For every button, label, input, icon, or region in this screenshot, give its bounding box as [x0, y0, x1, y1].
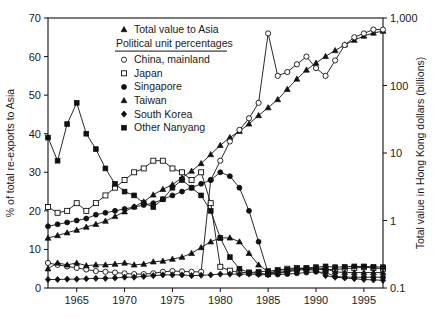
series-marker-4 [189, 250, 195, 255]
legend-subheader-political-unit: Political unit percentages [116, 37, 233, 49]
legend-marker-other-nanyang [122, 125, 127, 130]
series-marker-6 [314, 265, 319, 270]
series-marker-1 [266, 31, 271, 36]
series-line-6 [48, 103, 383, 273]
series-marker-3 [256, 239, 261, 244]
series-marker-6 [304, 266, 309, 271]
y2-axis-tick-label: 1 [390, 215, 396, 227]
series-marker-6 [103, 166, 108, 171]
series-marker-0 [332, 48, 338, 53]
series-line-2 [48, 161, 383, 274]
series-marker-2 [199, 170, 204, 175]
legend-label-south-korea: South Korea [134, 108, 193, 120]
y-axis-tick-label: 40 [29, 128, 41, 140]
series-marker-0 [103, 218, 109, 223]
x-axis-tick-label: 1980 [208, 294, 232, 306]
series-marker-1 [218, 158, 223, 163]
series-marker-4 [74, 260, 80, 265]
series-marker-2 [141, 166, 146, 171]
x-axis-tick-label: 1970 [112, 294, 136, 306]
legend-label-other-nanyang: Other Nanyang [134, 121, 205, 133]
legend-marker-south-korea [121, 111, 126, 117]
series-marker-2 [151, 158, 156, 163]
series-marker-5 [84, 276, 89, 282]
x-axis-tick-label: 1985 [256, 294, 280, 306]
series-marker-2 [160, 158, 165, 163]
series-marker-1 [352, 35, 357, 40]
series-marker-1 [371, 27, 376, 32]
series-marker-6 [371, 264, 376, 269]
chart-container: 0102030405060700.11101001,00019651970197… [0, 0, 434, 319]
series-marker-0 [313, 60, 319, 65]
x-axis-tick-label: 1975 [160, 294, 184, 306]
series-marker-4 [122, 260, 128, 265]
series-marker-6 [199, 193, 204, 198]
series-marker-2 [65, 208, 70, 213]
series-marker-6 [93, 147, 98, 152]
series-marker-5 [45, 276, 50, 282]
series-marker-6 [189, 185, 194, 190]
series-marker-1 [227, 139, 232, 144]
series-marker-6 [294, 266, 299, 271]
series-marker-2 [93, 201, 98, 206]
series-marker-6 [65, 122, 70, 127]
series-marker-1 [45, 260, 50, 265]
y2-axis-title: Total value in Hong Kong dollars (billio… [414, 57, 426, 250]
series-marker-1 [380, 27, 385, 32]
series-marker-3 [55, 222, 60, 227]
x-axis-tick-label: 1995 [352, 294, 376, 306]
series-marker-6 [151, 205, 156, 210]
series-marker-3 [113, 208, 118, 213]
series-marker-6 [237, 266, 242, 271]
series-marker-3 [46, 224, 51, 229]
y2-axis-tick-label: 1,000 [390, 12, 418, 24]
series-marker-3 [218, 170, 223, 175]
y2-axis-tick-label: 100 [390, 80, 408, 92]
series-marker-6 [361, 264, 366, 269]
series-marker-2 [55, 210, 60, 215]
series-marker-6 [141, 201, 146, 206]
series-marker-6 [333, 265, 338, 270]
series-marker-6 [381, 265, 386, 270]
y-axis-tick-label: 50 [29, 89, 41, 101]
series-marker-0 [304, 67, 310, 72]
series-marker-3 [84, 216, 89, 221]
series-marker-5 [218, 271, 223, 277]
legend-label-china-mainland: China, mainland [134, 53, 210, 65]
series-marker-0 [150, 192, 156, 197]
series-marker-5 [112, 275, 117, 281]
legend-label-japan: Japan [134, 67, 163, 79]
series-marker-1 [342, 42, 347, 47]
series-marker-0 [323, 53, 329, 58]
series-marker-2 [189, 178, 194, 183]
legend-marker-japan [122, 71, 127, 76]
series-marker-1 [103, 269, 108, 274]
series-marker-1 [323, 73, 328, 78]
series-marker-1 [246, 116, 251, 121]
series-marker-6 [132, 193, 137, 198]
series-marker-0 [189, 168, 195, 173]
series-marker-1 [93, 268, 98, 273]
series-marker-3 [93, 212, 98, 217]
series-marker-2 [180, 170, 185, 175]
series-marker-3 [74, 218, 79, 223]
y-axis-tick-label: 30 [29, 166, 41, 178]
series-marker-5 [64, 276, 69, 282]
series-marker-4 [45, 266, 51, 271]
series-marker-3 [199, 181, 204, 186]
series-marker-6 [256, 269, 261, 274]
series-marker-3 [227, 174, 232, 179]
y-axis-tick-label: 60 [29, 51, 41, 63]
series-marker-1 [361, 31, 366, 36]
series-marker-1 [333, 58, 338, 63]
series-marker-6 [266, 269, 271, 274]
series-marker-3 [247, 208, 252, 213]
legend-marker-singapore [122, 84, 127, 89]
series-marker-6 [342, 264, 347, 269]
legend-marker-total-value [121, 27, 127, 32]
series-marker-6 [113, 181, 118, 186]
series-marker-6 [247, 270, 252, 275]
series-marker-6 [170, 185, 175, 190]
series-marker-5 [103, 275, 108, 281]
series-marker-6 [122, 189, 127, 194]
